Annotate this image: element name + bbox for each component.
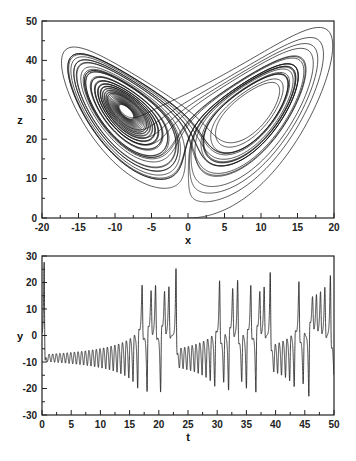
x-tick-label: 10 [95, 419, 107, 430]
y-tick-label: 20 [26, 277, 38, 288]
x-tick-label: 5 [222, 222, 228, 233]
y-tick-label: -30 [23, 410, 38, 421]
x-tick-label: 0 [39, 419, 45, 430]
x-tick-label: 50 [328, 419, 340, 430]
y-tick-label: 0 [31, 330, 37, 341]
attractor-trajectory [62, 27, 333, 218]
phase-portrait-plot: -20-15-10-50510152001020304050 x z [17, 16, 340, 247]
y-tick-label: 10 [26, 304, 38, 315]
x-tick-label: 0 [185, 222, 191, 233]
time-series-frame [42, 256, 334, 415]
x-tick-label: 10 [255, 222, 267, 233]
y-tick-label: 30 [26, 251, 38, 262]
y-tick-label: 0 [31, 213, 37, 224]
y-tick-label: 20 [26, 134, 38, 145]
figure: -20-15-10-50510152001020304050 x z 05101… [0, 0, 356, 461]
x-tick-label: 35 [241, 419, 253, 430]
x-tick-label: 20 [153, 419, 165, 430]
y-tick-label: 40 [26, 55, 38, 66]
x-tick-label: 5 [68, 419, 74, 430]
y-tick-label: -20 [23, 383, 38, 394]
y-series-line [42, 262, 334, 396]
y-tick-label: 10 [26, 173, 38, 184]
x-tick-label: 30 [212, 419, 224, 430]
x-tick-label: -10 [108, 222, 123, 233]
x-tick-label: 20 [328, 222, 340, 233]
x-tick-label: -5 [147, 222, 156, 233]
x-tick-label: 15 [292, 222, 304, 233]
x-tick-label: -15 [71, 222, 86, 233]
y-axis-label: y [17, 330, 24, 342]
trajectory-line [62, 27, 333, 218]
y-tick-label: 50 [26, 16, 38, 27]
x-tick-label: 45 [299, 419, 311, 430]
y-tick-label: 30 [26, 94, 38, 105]
x-tick-label: 15 [124, 419, 136, 430]
lorenz-figure: -20-15-10-50510152001020304050 x z 05101… [0, 0, 356, 461]
y-tick-label: -10 [23, 357, 38, 368]
phase-portrait-ticks: -20-15-10-50510152001020304050 [26, 16, 340, 234]
t-axis-label: t [186, 431, 190, 443]
x-axis-label: x [185, 234, 192, 246]
time-series-plot: 05101520253035404550-30-20-100102030 t y [17, 251, 340, 444]
x-tick-label: 25 [182, 419, 194, 430]
z-axis-label: z [17, 114, 23, 126]
y-time-series [42, 262, 334, 396]
x-tick-label: -20 [35, 222, 50, 233]
x-tick-label: 40 [270, 419, 282, 430]
